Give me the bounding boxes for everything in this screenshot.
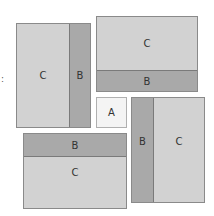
label-c: C xyxy=(40,70,47,81)
label-b: B xyxy=(72,140,79,151)
edge-mark: : xyxy=(1,74,4,84)
region-b: B xyxy=(132,98,153,202)
label-c: C xyxy=(176,136,183,147)
tile-bottom-right: B C xyxy=(131,97,205,203)
label-b: B xyxy=(139,136,146,147)
tile-center-a: A xyxy=(96,97,127,128)
region-c: C xyxy=(153,98,204,202)
region-b: B xyxy=(69,24,90,127)
region-c: C xyxy=(17,24,69,127)
tile-top-right: C B xyxy=(96,16,198,92)
tile-top-left: C B xyxy=(16,23,91,128)
label-b: B xyxy=(144,76,151,87)
region-b: B xyxy=(97,70,197,91)
region-b: B xyxy=(24,134,126,156)
region-c: C xyxy=(97,17,197,70)
label-a: A xyxy=(108,107,115,118)
label-c: C xyxy=(144,38,151,49)
region-a: A xyxy=(97,98,126,127)
label-c: C xyxy=(72,167,79,178)
tile-bottom-left: B C xyxy=(23,133,127,209)
region-c: C xyxy=(24,156,126,208)
pinwheel-diagram: : C B C B A B C B xyxy=(0,0,214,216)
label-b: B xyxy=(77,70,84,81)
